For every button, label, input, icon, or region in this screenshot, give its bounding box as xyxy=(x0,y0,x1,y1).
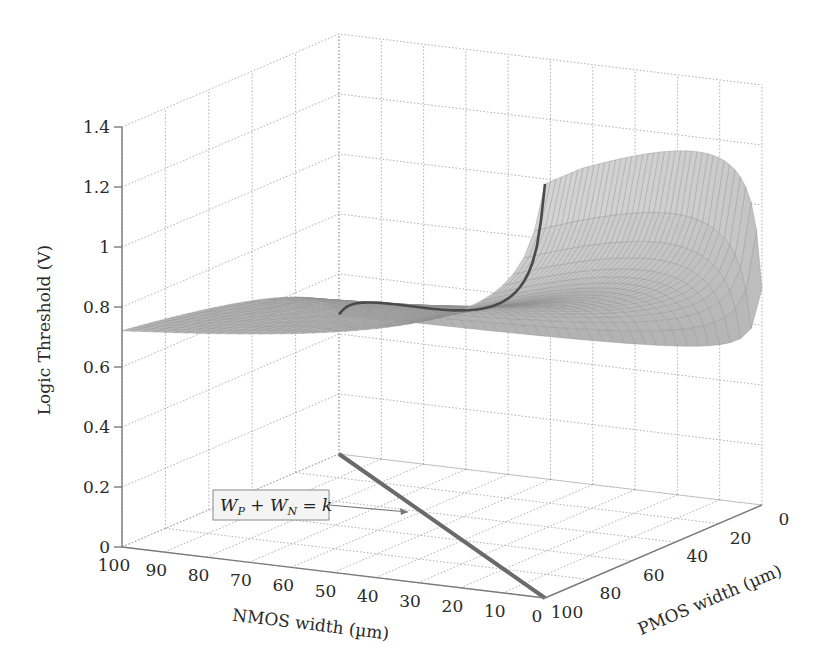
y-tick-label: 80 xyxy=(600,583,622,603)
annotation-box: WP + WN = k xyxy=(213,490,408,520)
x-tick-label: 90 xyxy=(145,560,167,580)
y-tick-label: 20 xyxy=(730,528,752,548)
z-tick-label: 0.2 xyxy=(83,477,110,497)
x-tick-label: 70 xyxy=(230,570,252,590)
x-tick-label: 60 xyxy=(272,575,294,595)
z-tick-label: 1.4 xyxy=(83,117,110,137)
z-axis-label: Logic Threshold (V) xyxy=(34,245,54,415)
z-tick-label: 1 xyxy=(99,237,110,257)
arrow-head-icon xyxy=(400,508,408,515)
x-tick-label: 20 xyxy=(442,596,464,616)
y-tick-label: 0 xyxy=(779,509,790,529)
annotation-text: WP + WN = k xyxy=(220,495,332,518)
y-tick-label: 60 xyxy=(643,565,665,585)
highlight-curve xyxy=(339,184,545,314)
x-tick-label: 10 xyxy=(484,601,506,621)
x-tick-label: 80 xyxy=(188,565,210,585)
x-tick-label: 50 xyxy=(315,581,337,601)
z-tick-label: 0 xyxy=(99,537,110,557)
z-tick-label: 0.8 xyxy=(83,297,110,317)
z-tick-label: 0.6 xyxy=(83,357,110,377)
y-tick-label: 40 xyxy=(686,546,708,566)
surface-mesh xyxy=(122,151,762,347)
z-tick-label: 1.2 xyxy=(83,177,110,197)
x-tick-label: 40 xyxy=(357,586,379,606)
x-tick-label: 100 xyxy=(98,555,130,575)
x-axis-label: NMOS width (µm) xyxy=(231,605,390,644)
x-tick-label: 0 xyxy=(532,606,543,626)
y-tick-label: 100 xyxy=(551,602,583,622)
z-tick-label: 0.4 xyxy=(83,417,110,437)
x-tick-label: 30 xyxy=(399,591,421,611)
surface-plot: 00.20.40.60.811.21.410090807060504030201… xyxy=(0,0,833,668)
